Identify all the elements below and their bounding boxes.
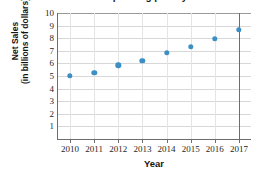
gridline-vertical	[191, 13, 192, 139]
gridline-horizontal	[58, 126, 251, 127]
y-axis-title: Net Sales (in billions of dollars)	[7, 0, 33, 96]
x-axis-tick-mark	[167, 139, 168, 143]
y-axis-tick-label: 8	[50, 33, 55, 43]
gridline-horizontal	[58, 13, 251, 14]
gridline-vertical	[94, 13, 95, 139]
data-point	[91, 70, 96, 75]
data-point	[188, 44, 193, 49]
y-axis-title-line-2: (in billions of dollars)	[20, 0, 31, 84]
gridline-horizontal	[58, 38, 251, 39]
gridline-vertical	[167, 13, 168, 139]
x-axis-tick-mark	[142, 139, 143, 143]
x-axis-tick-mark	[118, 139, 119, 143]
x-axis-title: Year	[55, 158, 253, 169]
gridline-horizontal	[58, 26, 251, 27]
chart-figure: The table shows the operating profit y o…	[0, 0, 257, 180]
y-axis-tick-label: 6	[50, 58, 55, 68]
gridline-horizontal	[58, 89, 251, 90]
x-axis-tick-mark	[94, 139, 95, 143]
x-axis-tick-label: 2014	[158, 144, 176, 154]
y-axis-tick-label: 7	[50, 46, 55, 56]
gridline-horizontal	[58, 51, 251, 52]
data-point	[164, 50, 169, 55]
gridline-horizontal	[58, 76, 251, 77]
y-axis-tick-label: 10	[45, 8, 54, 18]
x-axis-tick-label: 2016	[206, 144, 224, 154]
y-axis-tick-label: 5	[50, 71, 55, 81]
y-axis-tick-label: 2	[50, 109, 55, 119]
y-axis-title-line-1: Net Sales	[10, 22, 21, 60]
y-axis-tick-label: 4	[50, 84, 55, 94]
gridline-vertical	[118, 13, 119, 139]
data-point	[67, 73, 72, 78]
gridline-horizontal	[58, 63, 251, 64]
x-axis-tick-label: 2013	[133, 144, 151, 154]
y-axis-tick-label: 3	[50, 96, 55, 106]
data-point	[116, 63, 121, 68]
plot-area: 1098765432120102011201220132014201520162…	[57, 13, 251, 140]
x-axis-tick-mark	[239, 139, 240, 143]
data-point	[236, 27, 241, 32]
x-axis-tick-label: 2015	[182, 144, 200, 154]
x-axis-tick-mark	[70, 139, 71, 143]
y-axis-tick-label: 1	[50, 121, 55, 131]
x-axis-tick-mark	[215, 139, 216, 143]
x-axis-tick-label: 2011	[85, 144, 103, 154]
x-axis-tick-label: 2012	[109, 144, 127, 154]
gridline-vertical	[142, 13, 143, 139]
gridline-vertical	[215, 13, 216, 139]
x-axis-tick-mark	[191, 139, 192, 143]
gridline-horizontal	[58, 114, 251, 115]
chart-title: The table shows the operating profit y o…	[0, 0, 257, 2]
gridline-horizontal	[58, 101, 251, 102]
y-axis-tick-label: 9	[50, 21, 55, 31]
x-axis-tick-label: 2017	[230, 144, 248, 154]
data-point	[212, 36, 217, 41]
x-axis-tick-label: 2010	[61, 144, 79, 154]
